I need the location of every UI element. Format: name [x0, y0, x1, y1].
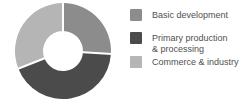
legend-label: Basic development: [152, 9, 228, 21]
donut-chart-area: [0, 0, 126, 104]
donut-segment-2: [15, 3, 63, 69]
legend-label: Primary production & processing: [152, 32, 228, 55]
legend-label: Commerce & industry: [152, 56, 239, 68]
legend-item-primary-production: Primary production & processing: [130, 32, 228, 55]
legend-swatch-icon: [130, 56, 142, 68]
donut-segment-0: [63, 3, 111, 54]
chart-legend: Basic development Primary production & p…: [130, 0, 249, 104]
legend-item-commerce-industry: Commerce & industry: [130, 56, 239, 68]
donut-chart: [0, 0, 126, 104]
donut-chart-figure: Basic development Primary production & p…: [0, 0, 249, 104]
legend-swatch-icon: [130, 32, 142, 44]
legend-swatch-icon: [130, 9, 142, 21]
legend-item-basic-development: Basic development: [130, 9, 228, 21]
